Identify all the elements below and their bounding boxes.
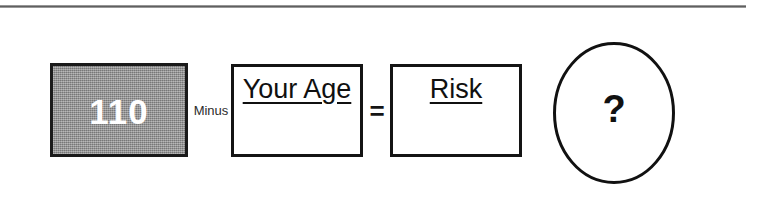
equals-operator-label: = [367,98,387,124]
constant-value-text: 110 [89,94,148,129]
horizontal-rule-divider [0,5,746,8]
your-age-input-box[interactable]: Your Age [231,64,363,157]
minus-operator-label: Minus [190,104,232,117]
risk-result-box[interactable]: Risk [390,64,522,157]
question-mark-icon: ? [552,90,676,128]
your-age-label: Your Age [234,76,360,103]
diagram-canvas: 110 Minus Your Age = Risk ? [0,0,769,210]
constant-value-box: 110 [50,63,188,157]
risk-label: Risk [393,76,519,103]
